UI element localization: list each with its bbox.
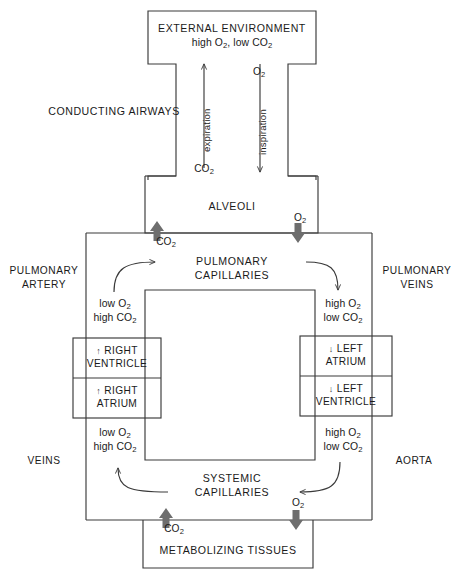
pulmonary-artery-blood-line1: low O2 — [76, 298, 154, 312]
sa-high-o2-text: high O — [325, 427, 356, 438]
o2-tissue-formula: O — [292, 497, 300, 508]
co2-alveolar-formula: CO — [156, 236, 171, 247]
sv-low-o2-text: low O — [99, 427, 126, 438]
left-ventricle-down-arrow-icon: ↓ — [329, 384, 334, 394]
o2-alveolar-subscript: 2 — [302, 216, 306, 225]
pv-co2-subscript: 2 — [358, 316, 362, 325]
pulmonary-artery-line2: ARTERY — [0, 279, 88, 291]
systemic-vein-blood-line1: low O2 — [76, 427, 154, 441]
right-atrium-text1: RIGHT — [104, 385, 137, 396]
left-ventricle-line2: VENTRICLE — [306, 396, 386, 408]
pa-co2-subscript: 2 — [132, 316, 136, 325]
sv-o2-subscript: 2 — [126, 431, 130, 440]
o2-tissue-label: O2 — [278, 497, 318, 510]
respiratory-circulation-diagram: EXTERNAL ENVIRONMENT high O2, low CO2 CO… — [0, 0, 461, 582]
systemic-vein-blood-line2: high CO2 — [76, 441, 154, 455]
co2-alveolar-subscript: 2 — [172, 240, 176, 249]
o2-alveolar-down-arrow — [291, 223, 305, 243]
o2-alveolar-label: O2 — [280, 212, 320, 225]
right-ventricle-line1: ↑ RIGHT — [79, 345, 155, 357]
left-ventricle-text1: LEFT — [337, 383, 363, 394]
o2-alveolar-formula: O — [294, 212, 302, 223]
right-atrium-up-arrow-icon: ↑ — [96, 386, 101, 396]
o2-external-formula: O — [253, 66, 261, 77]
systemic-capillaries-line1: SYSTEMIC — [152, 472, 312, 484]
inner-circulation-rectangle — [145, 290, 315, 460]
pulmonary-vein-blood-line2: low CO2 — [304, 312, 382, 326]
right-ventricle-line2: VENTRICLE — [79, 358, 155, 370]
ee-high-o2-text: high O — [192, 37, 223, 48]
right-atrium-line1: ↑ RIGHT — [79, 385, 155, 397]
systemic-artery-blood-line2: low CO2 — [304, 441, 382, 455]
pulmonary-veins-line2: VEINS — [373, 279, 461, 291]
ee-low-co2-text: , low CO — [227, 37, 268, 48]
left-atrium-line2: ATRIUM — [306, 356, 386, 368]
left-ventricle-line1: ↓ LEFT — [306, 383, 386, 395]
co2-tissue-formula: CO — [164, 523, 179, 534]
co2-tissue-subscript: 2 — [180, 527, 184, 536]
right-ventricle-up-arrow-icon: ↑ — [96, 346, 101, 356]
o2-tissue-subscript: 2 — [300, 501, 304, 510]
external-environment-title: EXTERNAL ENVIRONMENT — [142, 22, 322, 34]
systemic-artery-blood-line1: high O2 — [304, 427, 382, 441]
conducting-airways-label: CONDUCTING AIRWAYS — [24, 105, 204, 117]
sv-high-co2-text: high CO — [93, 441, 132, 452]
aorta-label: AORTA — [375, 455, 453, 467]
ee-co2-subscript: 2 — [268, 41, 272, 50]
expiration-label: expiration — [201, 108, 212, 152]
pulmonary-artery-blood-line2: high CO2 — [76, 312, 154, 326]
o2-external-subscript: 2 — [261, 70, 265, 79]
pv-o2-subscript: 2 — [356, 302, 360, 311]
conducting-airways-outline — [148, 60, 316, 180]
co2-alveolar-label: CO2 — [144, 236, 188, 249]
o2-tissue-down-arrow — [289, 510, 303, 530]
inspiration-label: inspiration — [257, 109, 268, 155]
o2-external-label: O2 — [239, 66, 279, 79]
sa-o2-subscript: 2 — [356, 431, 360, 440]
sa-low-co2-text: low CO — [324, 441, 359, 452]
pulmonary-capillaries-line2: CAPILLARIES — [152, 269, 312, 281]
sv-co2-subscript: 2 — [132, 445, 136, 454]
pv-low-co2-text: low CO — [324, 312, 359, 323]
left-atrium-text1: LEFT — [337, 343, 363, 354]
veins-label: VEINS — [5, 455, 83, 467]
pa-high-co2-text: high CO — [93, 312, 132, 323]
external-environment-box-outline — [148, 11, 316, 60]
pulmonary-vein-blood-line1: high O2 — [304, 298, 382, 312]
co2-airway-subscript: 2 — [210, 167, 214, 176]
pv-high-o2-text: high O — [325, 298, 356, 309]
right-atrium-line2: ATRIUM — [79, 398, 155, 410]
co2-airway-label: CO2 — [182, 163, 226, 176]
alveoli-label: ALVEOLI — [172, 200, 292, 212]
metabolizing-tissues-label: METABOLIZING TISSUES — [128, 544, 328, 556]
pa-low-o2-text: low O — [99, 298, 126, 309]
co2-airway-formula: CO — [194, 163, 209, 174]
left-atrium-line1: ↓ LEFT — [306, 343, 386, 355]
flow-arrow-pulmonary-in — [114, 262, 155, 292]
co2-tissue-label: CO2 — [152, 523, 196, 536]
pulmonary-capillaries-line1: PULMONARY — [152, 255, 312, 267]
sa-co2-subscript: 2 — [358, 445, 362, 454]
pulmonary-veins-line1: PULMONARY — [373, 265, 461, 277]
right-ventricle-text1: RIGHT — [104, 345, 137, 356]
pulmonary-artery-line1: PULMONARY — [0, 265, 88, 277]
external-environment-gas-composition: high O2, low CO2 — [142, 37, 322, 51]
left-atrium-down-arrow-icon: ↓ — [329, 344, 334, 354]
pa-o2-subscript: 2 — [126, 302, 130, 311]
